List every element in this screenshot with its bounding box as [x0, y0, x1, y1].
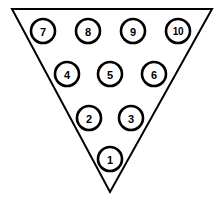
pin-number-5: 5 — [107, 69, 113, 81]
pin-number-4: 4 — [64, 69, 71, 81]
pin-number-6: 6 — [151, 69, 157, 81]
bowling-pin-6[interactable]: 6 — [142, 62, 166, 86]
bowling-pin-diagram: 78910456231 — [0, 0, 220, 208]
bowling-pin-7[interactable]: 7 — [31, 19, 55, 43]
pin-number-3: 3 — [128, 113, 134, 125]
bowling-pin-3[interactable]: 3 — [119, 106, 143, 130]
pin-number-10: 10 — [173, 26, 184, 37]
diagram-canvas: 78910456231 — [0, 0, 220, 208]
pin-number-1: 1 — [107, 154, 113, 166]
bowling-pin-2[interactable]: 2 — [77, 106, 101, 130]
bowling-pin-10[interactable]: 10 — [166, 19, 190, 43]
pins-group: 78910456231 — [31, 19, 190, 171]
pin-number-2: 2 — [86, 113, 92, 125]
bowling-pin-8[interactable]: 8 — [76, 19, 100, 43]
bowling-pin-9[interactable]: 9 — [121, 19, 145, 43]
pin-number-9: 9 — [130, 26, 136, 38]
bowling-pin-5[interactable]: 5 — [98, 62, 122, 86]
bowling-pin-1[interactable]: 1 — [98, 147, 122, 171]
pin-number-7: 7 — [40, 26, 46, 38]
bowling-pin-4[interactable]: 4 — [55, 62, 79, 86]
pin-number-8: 8 — [85, 26, 91, 38]
